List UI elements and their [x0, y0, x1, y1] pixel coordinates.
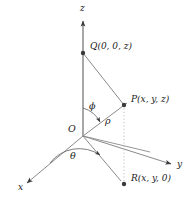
axis-label-z: z	[80, 4, 85, 13]
point-dot-q	[81, 51, 85, 55]
axis-y-line	[83, 136, 171, 164]
angle-label-phi: ϕ	[89, 101, 95, 111]
spherical-coordinates-figure: z y x O Q(0, 0, z) P(x, y, z) R(x, y, 0)…	[0, 0, 192, 207]
point-dot-r	[122, 182, 126, 186]
segment-label-rho: ρ	[105, 116, 111, 126]
axis-label-y: y	[177, 160, 182, 169]
axis-y	[83, 136, 171, 164]
point-label-p: P(x, y, z)	[131, 95, 169, 104]
segment-xy-plane-guide	[83, 136, 150, 152]
origin-label-o: O	[68, 124, 76, 134]
axis-label-x: x	[18, 183, 23, 192]
point-label-r: R(x, y, 0)	[131, 174, 171, 183]
segment-o-to-r	[83, 136, 121, 181]
angle-label-theta: θ	[70, 151, 76, 161]
point-label-q: Q(0, 0, z)	[90, 42, 132, 51]
point-dot-p	[122, 103, 126, 107]
segment-q-to-p	[83, 53, 124, 105]
